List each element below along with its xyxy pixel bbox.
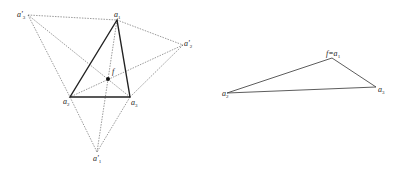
label-right-a2: a2	[222, 89, 229, 99]
triangle-a1a2a3	[70, 20, 130, 97]
label-a1: a1	[114, 10, 121, 20]
diagram-canvas: f a1 a2 a3 a'1 a'2 a'3 f=a1 a2 a3	[0, 0, 405, 171]
edge-a3p-a2	[28, 15, 70, 97]
edge-a2p-a3	[130, 45, 183, 97]
edge-a3-a1p	[97, 97, 130, 152]
label-f-equals-a1: f=a1	[326, 49, 341, 59]
label-a3-prime: a'3	[17, 10, 26, 20]
right-figure: f=a1 a2 a3	[222, 49, 385, 99]
fermat-point	[106, 77, 110, 81]
triangle-degenerate	[227, 58, 376, 93]
line-a1-a1p	[97, 20, 117, 152]
label-a2: a2	[63, 97, 70, 107]
line-a2p-a2	[70, 45, 183, 97]
label-right-a3: a3	[378, 85, 385, 95]
left-figure: f a1 a2 a3 a'1 a'2 a'3	[17, 10, 193, 164]
edge-a3p-a1	[28, 15, 117, 20]
label-a2-prime: a'2	[184, 39, 193, 49]
line-a3p-a3	[28, 15, 130, 97]
edge-a2-a1p	[70, 97, 97, 152]
edge-a1-a2p	[117, 20, 183, 45]
label-a1-prime: a'1	[93, 154, 102, 164]
label-a3: a3	[131, 98, 138, 108]
label-f: f	[112, 67, 116, 76]
